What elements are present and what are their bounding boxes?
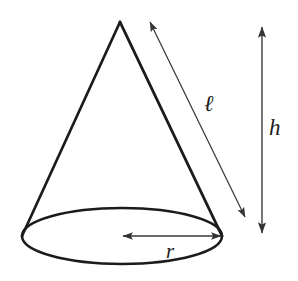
cone-left-slant-edge [22,22,120,236]
cone-figure-svg [0,0,298,281]
slant-height-label: ℓ [204,92,214,115]
radius-label: r [166,241,174,262]
cone-right-slant-edge [120,22,222,236]
cone-diagram: ℓ h r [0,0,298,281]
height-label: h [269,116,281,139]
